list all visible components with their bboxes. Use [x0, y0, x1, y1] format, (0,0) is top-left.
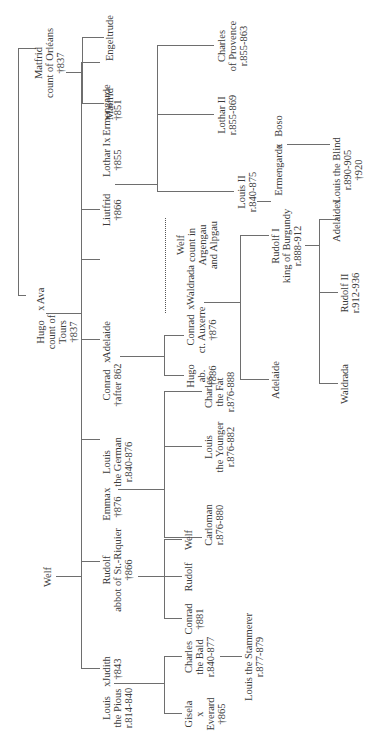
connector: [157, 191, 234, 192]
connector: [18, 295, 26, 296]
connector: [81, 209, 100, 210]
connector: [220, 656, 242, 657]
connector: [240, 235, 241, 380]
connector: [164, 656, 182, 657]
person-waldrada: Waldrada: [185, 265, 196, 305]
connector: [157, 45, 158, 192]
person-rudolf-son: Rudolf: [183, 562, 194, 591]
connector: [82, 37, 83, 104]
connector: [164, 576, 182, 577]
connector: [18, 49, 19, 296]
connector: [81, 668, 100, 669]
person-ermengarde: Ermengarde †851: [101, 84, 123, 135]
person-conrad-881: Conrad †881: [183, 604, 205, 635]
connector: [138, 576, 164, 577]
person-judith: Judith †843: [101, 656, 123, 682]
connector: [120, 356, 164, 357]
person-ava: Ava: [35, 288, 46, 305]
person-adelaide: Adelaide: [101, 321, 112, 359]
connector: [204, 302, 240, 303]
connector: [81, 259, 100, 260]
marriage-x: x: [35, 305, 46, 310]
connector: [319, 292, 338, 293]
marriage-x: x: [101, 487, 112, 492]
connector: [319, 383, 338, 384]
person-engeltrude: Engeltrude: [104, 15, 115, 61]
connector: [240, 235, 269, 236]
connector: [288, 144, 330, 145]
person-rudolf-ii: Rudolf II r.912-936: [339, 273, 361, 314]
connector: [164, 375, 184, 376]
person-welf: Welf: [42, 567, 53, 587]
connector: [81, 439, 100, 440]
person-louis-ii: Louis II r.840-875: [236, 172, 258, 213]
connector: [164, 713, 182, 714]
marriage-x: x: [101, 357, 112, 362]
connector: [164, 618, 182, 619]
connector: [164, 335, 184, 336]
person-waldrada-rudolf-daughter: Waldrada: [339, 364, 350, 404]
person-charles-of-provence: Charles of Provence r.855-863: [216, 21, 249, 71]
person-louis-the-german: Louis the German r.840-876: [101, 437, 134, 486]
connector: [66, 72, 82, 73]
person-hugo-count-of-tours: Hugo count of Tours †837: [35, 315, 79, 350]
connector: [240, 379, 269, 380]
connector: [56, 576, 81, 577]
connector: [81, 62, 82, 340]
connector: [164, 540, 165, 619]
marriage-x: x: [101, 681, 112, 686]
connector: [157, 45, 214, 46]
marriage-x: x: [101, 137, 112, 142]
connector: [319, 220, 320, 384]
person-boso: Boso: [273, 115, 284, 137]
person-liutfrid: Liutfrid †866: [101, 194, 123, 227]
marriage-x: x: [273, 143, 284, 148]
connector: [81, 561, 100, 562]
person-lothar-ii: Lothar II r.855-869: [216, 95, 238, 136]
person-adelaide-conrad-daughter: Adelaide: [270, 361, 281, 399]
person-adelaide-rudolf-daughter: Adelaide: [331, 204, 342, 242]
connector: [164, 539, 182, 540]
person-rudolf-abbot-of-st-riquier: Rudolf abbot of St.-Riquier †866: [101, 528, 134, 612]
connector: [164, 656, 165, 714]
person-rudolf-i: Rudolf I king of Burgundy r.888-912: [270, 209, 303, 283]
person-conrad-ct-auxerre: Conrad ct. Auxerre †876: [185, 307, 218, 354]
person-lothar-i: Lothar I †855: [101, 143, 123, 177]
person-louis-the-pious: Louis the Pious r.814-840: [101, 688, 134, 729]
connector: [157, 114, 214, 115]
person-emma: Emma †876: [101, 493, 123, 520]
connector: [257, 201, 271, 202]
person-louis-the-stammerer: Louis the Stammerer r.877-879: [243, 613, 265, 701]
connector: [305, 245, 319, 246]
person-louis-the-blind: Louis the Blind r.890-905 †920: [331, 137, 364, 202]
connector: [115, 184, 157, 185]
person-welf-son: Welf: [183, 530, 194, 550]
connector: [81, 339, 100, 340]
connector: [164, 391, 202, 392]
connector: [164, 392, 165, 538]
person-louis-the-younger: Louis the Younger r.876-882: [203, 422, 236, 473]
connector: [82, 37, 104, 38]
connector: [114, 683, 164, 684]
person-carloman: Carloman r.876-880: [203, 504, 225, 545]
person-matfrid-count-of-orleans: Matfrid count of Orléans †837: [33, 28, 66, 98]
person-charles-the-fat: Charles the Fat r.876-888: [203, 372, 236, 413]
person-gisela-x-everard: Gisela x Everard †865: [183, 697, 227, 730]
connector: [81, 62, 100, 63]
connector: [164, 446, 202, 447]
connector: [118, 489, 164, 490]
dotted-connector: [165, 218, 166, 313]
connector: [164, 336, 165, 376]
person-charles-the-bald: Charles the Bald r.840-877: [183, 637, 216, 678]
person-conrad-after-862: Conrad †after 862: [101, 364, 123, 407]
person-ermengarde-boso: Ermengarde: [273, 144, 284, 195]
person-welf-count-in-argengau: Welf count in Argengau and Alpgau: [175, 221, 219, 269]
